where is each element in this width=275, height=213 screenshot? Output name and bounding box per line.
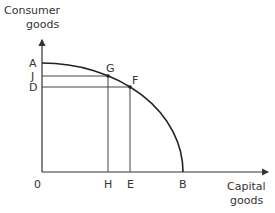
x-axis-title-line2: goods <box>230 194 263 207</box>
label-e: E <box>127 178 134 191</box>
y-axis-title-line1: Consumer <box>4 4 61 17</box>
x-axis-title-line1: Capital <box>227 180 266 193</box>
label-d: D <box>29 81 37 94</box>
label-origin: 0 <box>34 178 41 191</box>
label-f: F <box>132 74 138 87</box>
ppf-curve <box>42 63 183 172</box>
ppf-chart: Consumer goods Capital goods A J D G F 0… <box>0 0 275 213</box>
label-g: G <box>106 62 115 75</box>
y-axis-title-line2: goods <box>26 18 59 31</box>
label-a: A <box>29 57 37 70</box>
label-h: H <box>104 178 112 191</box>
label-b: B <box>179 178 187 191</box>
